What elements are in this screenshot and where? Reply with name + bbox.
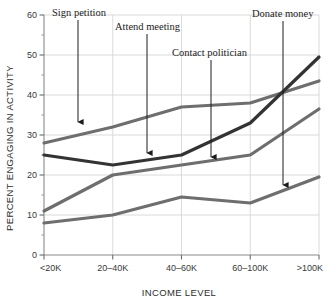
x-tick-label: 20–40K bbox=[97, 263, 128, 273]
y-tick-label: 60 bbox=[27, 10, 37, 20]
annotation-label-donate-money: Donate money bbox=[252, 8, 314, 19]
y-tick-label: 50 bbox=[27, 50, 37, 60]
x-tick-label: 40–60K bbox=[166, 263, 197, 273]
line-chart: 0102030405060 <20K20–40K40–60K60–100K>10… bbox=[0, 0, 334, 302]
y-tick-label: 10 bbox=[27, 210, 37, 220]
y-tick-labels: 0102030405060 bbox=[27, 10, 37, 260]
x-tick-label: >100K bbox=[297, 263, 323, 273]
x-tick-labels: <20K20–40K40–60K60–100K>100K bbox=[40, 263, 323, 273]
y-tick-label: 20 bbox=[27, 170, 37, 180]
y-axis-title: PERCENT ENGAGING IN ACTIVITY bbox=[4, 65, 15, 231]
annotation-label-attend-meeting: Attend meeting bbox=[115, 21, 181, 32]
x-tick-label: 60–100K bbox=[232, 263, 268, 273]
chart-container: 0102030405060 <20K20–40K40–60K60–100K>10… bbox=[0, 0, 334, 302]
y-tick-label: 30 bbox=[27, 130, 37, 140]
x-axis-ticks bbox=[44, 255, 319, 260]
y-tick-label: 40 bbox=[27, 90, 37, 100]
annotation-label-contact-politician: Contact politician bbox=[172, 47, 248, 58]
y-axis-ticks bbox=[40, 15, 45, 255]
y-tick-label: 0 bbox=[32, 250, 37, 260]
x-axis-title: INCOME LEVEL bbox=[142, 287, 216, 298]
annotation-label-sign-petition: Sign petition bbox=[52, 7, 107, 18]
x-tick-label: <20K bbox=[40, 263, 61, 273]
